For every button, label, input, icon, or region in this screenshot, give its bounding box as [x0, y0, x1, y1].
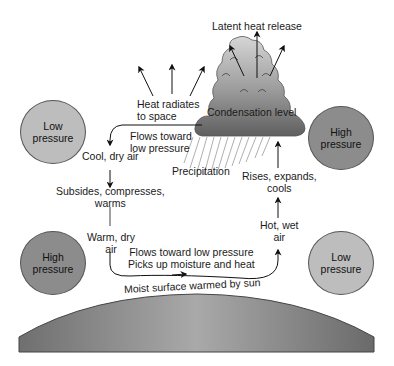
cool-dry-air-label: Cool, dry air: [82, 150, 139, 162]
flows-toward-low-pressure-bottom-label: Flows toward low pressure Picks up moist…: [128, 246, 255, 270]
high-pressure-circle-bottom-left: High pressure: [20, 231, 86, 295]
label-line: Flows toward low pressure: [128, 246, 255, 258]
circle-label: pressure: [321, 138, 362, 150]
label-line: to space: [137, 110, 199, 122]
latent-heat-label: Latent heat release: [212, 20, 302, 32]
diagram-graphics: [0, 0, 394, 366]
label-line: low pressure: [130, 142, 192, 154]
earth-surface: [19, 294, 374, 352]
cumulonimbus-cloud: [195, 32, 305, 136]
low-pressure-circle-bottom-right: Low pressure: [308, 231, 374, 295]
circle-label: Low: [33, 120, 74, 132]
label-line: air: [260, 231, 299, 243]
label-line: Hot, wet: [260, 219, 299, 231]
circle-label: pressure: [33, 263, 74, 275]
low-pressure-circle-top-left: Low pressure: [20, 100, 86, 164]
circle-label: Low: [321, 251, 362, 263]
precipitation-label: Precipitation: [172, 165, 230, 177]
label-line: Subsides, compresses,: [56, 185, 165, 197]
subsides-compresses-warms-label: Subsides, compresses, warms: [56, 185, 165, 209]
high-pressure-circle-top-right: High pressure: [308, 106, 374, 170]
label-line: Warm, dry: [87, 231, 135, 243]
flows-toward-low-pressure-top-label: Flows toward low pressure: [130, 130, 192, 154]
heat-radiation-arrows: [139, 65, 204, 96]
label-line: Rises, expands,: [242, 170, 317, 182]
label-line: Flows toward: [130, 130, 192, 142]
label-line: Picks up moisture and heat: [128, 258, 255, 270]
label-line: cools: [242, 182, 317, 194]
hot-wet-air-label: Hot, wet air: [260, 219, 299, 243]
condensation-level-label: Condensation level: [207, 106, 296, 118]
circle-label: pressure: [33, 132, 74, 144]
label-line: warms: [56, 197, 165, 209]
convection-diagram: Low pressure High pressure High pressure…: [0, 0, 394, 366]
circle-label: pressure: [321, 263, 362, 275]
label-line: Heat radiates: [137, 98, 199, 110]
rises-expands-cools-label: Rises, expands, cools: [242, 170, 317, 194]
heat-radiates-label: Heat radiates to space: [137, 98, 199, 122]
circle-label: High: [321, 126, 362, 138]
circle-label: High: [33, 251, 74, 263]
